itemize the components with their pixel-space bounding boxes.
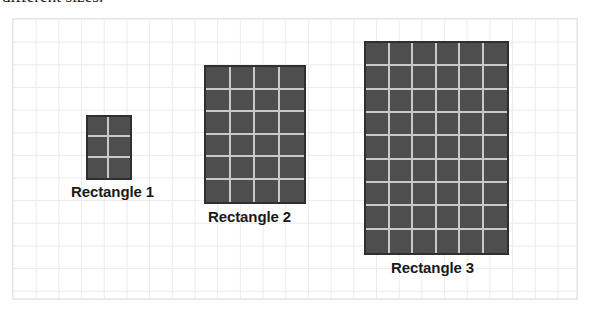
unit-square: [255, 157, 280, 180]
unit-square: [413, 183, 437, 206]
unit-square: [460, 43, 484, 66]
unit-square: [366, 90, 390, 113]
unit-square: [109, 117, 130, 137]
unit-square: [413, 90, 437, 113]
rectangle-1: [86, 115, 132, 180]
unit-square: [390, 66, 414, 89]
unit-square: [280, 112, 305, 135]
unit-square: [390, 136, 414, 159]
unit-square: [390, 43, 414, 66]
unit-square: [484, 183, 508, 206]
unit-square: [437, 206, 461, 229]
unit-square: [88, 137, 109, 157]
unit-square: [366, 66, 390, 89]
rectangle-3-label: Rectangle 3: [391, 259, 474, 276]
unit-square: [484, 66, 508, 89]
unit-square: [437, 183, 461, 206]
unit-square: [206, 112, 231, 135]
unit-square: [255, 67, 280, 90]
unit-square: [460, 136, 484, 159]
unit-square: [484, 113, 508, 136]
unit-square: [280, 90, 305, 113]
rectangle-1-label: Rectangle 1: [71, 183, 154, 200]
unit-square: [88, 158, 109, 178]
unit-square: [206, 157, 231, 180]
unit-square: [390, 183, 414, 206]
unit-square: [231, 112, 256, 135]
unit-square: [255, 90, 280, 113]
unit-square: [206, 67, 231, 90]
unit-square: [460, 66, 484, 89]
unit-square: [484, 136, 508, 159]
unit-square: [366, 160, 390, 183]
unit-square: [460, 113, 484, 136]
unit-square: [413, 230, 437, 253]
unit-square: [437, 136, 461, 159]
unit-square: [437, 66, 461, 89]
unit-square: [460, 183, 484, 206]
grid-paper-panel: Rectangle 1Rectangle 2Rectangle 3: [12, 18, 578, 300]
unit-square: [366, 136, 390, 159]
unit-square: [460, 90, 484, 113]
unit-square: [231, 135, 256, 158]
unit-square: [437, 160, 461, 183]
rectangle-3: [364, 41, 509, 255]
unit-square: [413, 43, 437, 66]
unit-square: [88, 117, 109, 137]
unit-square: [390, 90, 414, 113]
unit-square: [206, 90, 231, 113]
unit-square: [231, 67, 256, 90]
unit-square: [413, 66, 437, 89]
rectangle-2: [204, 65, 306, 204]
unit-square: [460, 206, 484, 229]
unit-square: [484, 43, 508, 66]
unit-square: [413, 206, 437, 229]
unit-square: [437, 230, 461, 253]
unit-square: [255, 112, 280, 135]
unit-square: [460, 160, 484, 183]
unit-square: [206, 180, 231, 203]
unit-square: [366, 43, 390, 66]
unit-square: [460, 230, 484, 253]
unit-square: [484, 160, 508, 183]
unit-square: [280, 135, 305, 158]
rectangle-1-unit-squares: [88, 117, 130, 178]
unit-square: [437, 113, 461, 136]
unit-square: [390, 160, 414, 183]
unit-square: [366, 206, 390, 229]
unit-square: [366, 230, 390, 253]
unit-square: [437, 90, 461, 113]
unit-square: [280, 180, 305, 203]
unit-square: [206, 135, 231, 158]
unit-square: [413, 136, 437, 159]
unit-square: [366, 183, 390, 206]
unit-square: [231, 180, 256, 203]
unit-square: [109, 137, 130, 157]
unit-square: [390, 206, 414, 229]
unit-square: [390, 230, 414, 253]
unit-square: [366, 113, 390, 136]
unit-square: [413, 160, 437, 183]
unit-square: [231, 90, 256, 113]
unit-square: [484, 230, 508, 253]
unit-square: [280, 157, 305, 180]
unit-square: [437, 43, 461, 66]
unit-square: [390, 113, 414, 136]
unit-square: [484, 90, 508, 113]
unit-square: [280, 67, 305, 90]
unit-square: [255, 180, 280, 203]
rectangle-2-label: Rectangle 2: [208, 208, 291, 225]
caption-text: different sizes.: [2, 0, 103, 7]
unit-square: [484, 206, 508, 229]
rectangle-3-unit-squares: [366, 43, 507, 253]
caption-strip: different sizes.: [0, 0, 589, 10]
unit-square: [109, 158, 130, 178]
rectangle-2-unit-squares: [206, 67, 304, 202]
unit-square: [413, 113, 437, 136]
unit-square: [255, 135, 280, 158]
unit-square: [231, 157, 256, 180]
